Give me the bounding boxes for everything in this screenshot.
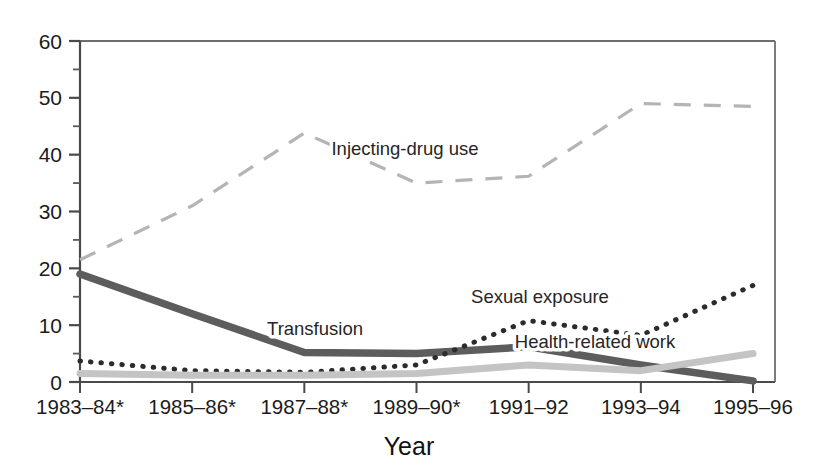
- series-line-injecting-drug-use: [80, 104, 753, 260]
- x-axis: 1983–84*1985–86*1987–88*1989–90*1991–921…: [36, 382, 793, 418]
- x-axis-title: Year: [384, 432, 435, 460]
- y-tick-label: 50: [39, 86, 62, 109]
- x-axis-ticks: [80, 382, 753, 393]
- series-label-health-related-work: Health-related work: [515, 331, 676, 352]
- x-tick-label: 1991–92: [489, 395, 569, 418]
- y-axis: 0102030405060: [39, 30, 80, 394]
- series-label-injecting-drug-use: Injecting-drug use: [331, 138, 478, 159]
- series-label-transfusion: Transfusion: [267, 318, 363, 339]
- x-axis-tick-labels: 1983–84*1985–86*1987–88*1989–90*1991–921…: [36, 395, 793, 418]
- chart-container: 0102030405060 1983–84*1985–86*1987–88*19…: [0, 0, 825, 474]
- x-tick-label: 1993–94: [601, 395, 681, 418]
- y-axis-tick-labels: 0102030405060: [39, 30, 62, 394]
- x-tick-label: 1983–84*: [36, 395, 124, 418]
- x-tick-label: 1985–86*: [148, 395, 236, 418]
- y-tick-label: 40: [39, 143, 62, 166]
- x-tick-label: 1995–96: [713, 395, 793, 418]
- y-tick-label: 30: [39, 200, 62, 223]
- series-annotation-group: Injecting-drug useInjecting-drug useTran…: [267, 138, 676, 352]
- line-chart: 0102030405060 1983–84*1985–86*1987–88*19…: [0, 0, 825, 474]
- series-label-sexual-exposure: Sexual exposure: [471, 286, 609, 307]
- y-tick-label: 10: [39, 314, 62, 337]
- y-tick-label: 60: [39, 30, 62, 53]
- x-tick-label: 1989–90*: [373, 395, 461, 418]
- x-tick-label: 1987–88*: [260, 395, 348, 418]
- y-tick-label: 20: [39, 257, 62, 280]
- y-tick-label: 0: [50, 371, 62, 394]
- y-axis-ticks: [69, 41, 80, 382]
- series-line-sexual-exposure: [80, 285, 753, 372]
